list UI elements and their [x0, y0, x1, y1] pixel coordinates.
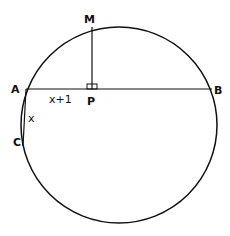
label-a: A [11, 83, 20, 96]
circle [21, 27, 217, 223]
circle-diagram: M A B P C x+1 x [0, 0, 230, 236]
label-c: C [13, 136, 21, 149]
label-ac-length: x [28, 112, 35, 125]
label-m: M [84, 13, 95, 26]
label-p: P [87, 95, 95, 108]
label-b: B [214, 84, 222, 97]
label-ap-length: x+1 [49, 93, 72, 106]
